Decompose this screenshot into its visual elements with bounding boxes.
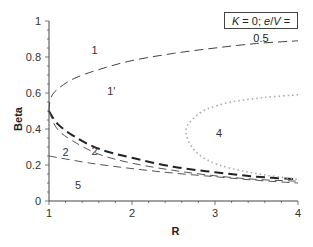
region-label: 1': [107, 85, 115, 97]
parameter-annotation-box: K = 0; e/V = 0.5: [224, 12, 298, 29]
series-line-0: [49, 41, 298, 111]
x-tick-label: 1: [46, 207, 52, 219]
x-tick-label: 3: [212, 207, 218, 219]
x-tick-label: 2: [129, 207, 135, 219]
y-tick-label: 0.8: [26, 51, 41, 63]
y-tick-label: 0.4: [26, 123, 41, 135]
x-axis-title: R: [172, 225, 180, 237]
y-tick-label: 0.6: [26, 87, 41, 99]
series-line-2: [49, 111, 298, 181]
ev-value: 0.5: [253, 32, 268, 44]
series-line-3: [49, 156, 298, 183]
y-tick-label: 0.2: [26, 159, 41, 171]
region-label: 5: [75, 179, 81, 191]
region-label: 2: [92, 145, 98, 157]
region-label: 1: [92, 44, 98, 56]
region-label: 4: [216, 127, 222, 139]
region-label: 2: [63, 146, 69, 158]
k-value: 0: [252, 15, 258, 27]
region-labels: 11'2245: [63, 44, 223, 191]
x-tick-label: 4: [295, 207, 301, 219]
y-tick-label: 1: [35, 15, 41, 27]
series-line-1: [49, 111, 298, 179]
y-axis-title: Beta: [12, 106, 24, 131]
series-line-4: [186, 95, 298, 180]
y-tick-label: 0: [35, 195, 41, 207]
curves: [49, 41, 298, 183]
